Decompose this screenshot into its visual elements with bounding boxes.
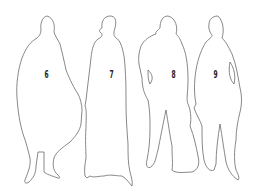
- figure-9-label: 9: [213, 68, 217, 81]
- figure-silhouettes: [0, 0, 265, 194]
- figure-8-outline: [139, 16, 199, 173]
- figure-7-outline: [85, 16, 133, 186]
- figure-7-label: 7: [109, 68, 113, 81]
- figure-9-outline: [194, 16, 242, 180]
- figure-6-label: 6: [44, 68, 48, 81]
- figure-8-label: 8: [171, 68, 175, 81]
- figure-6-outline: [17, 16, 82, 183]
